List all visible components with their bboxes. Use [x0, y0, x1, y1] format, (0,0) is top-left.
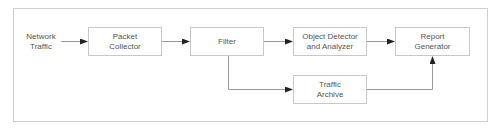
filter-label: Filter — [218, 37, 236, 47]
traffic-archive-box: Traffic Archive — [293, 75, 367, 104]
packet-collector-line2: Collector — [109, 42, 141, 52]
filter-box: Filter — [190, 27, 264, 56]
arrow-filter-to-archive — [229, 56, 293, 90]
network-traffic-label: Network Traffic — [20, 32, 62, 52]
packet-collector-line1: Packet — [113, 32, 137, 42]
network-traffic-line1: Network — [20, 32, 62, 42]
packet-collector-box: Packet Collector — [88, 27, 162, 56]
traffic-archive-line2: Archive — [317, 90, 344, 100]
report-generator-line2: Generator — [414, 42, 450, 52]
arrow-archive-to-report — [367, 57, 433, 90]
object-detector-line2: and Analyzer — [307, 42, 353, 52]
traffic-archive-line1: Traffic — [319, 80, 341, 90]
report-generator-box: Report Generator — [395, 27, 470, 56]
object-detector-box: Object Detector and Analyzer — [293, 27, 367, 56]
network-traffic-line2: Traffic — [20, 42, 62, 52]
connectors — [0, 0, 501, 131]
object-detector-line1: Object Detector — [302, 32, 358, 42]
report-generator-line1: Report — [420, 32, 444, 42]
